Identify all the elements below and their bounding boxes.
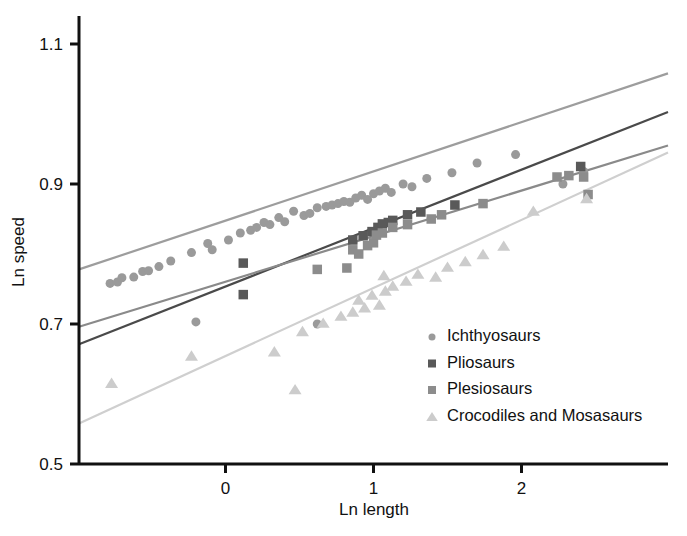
data-point	[564, 171, 574, 181]
data-point	[280, 217, 289, 226]
x-axis-title: Ln length	[339, 500, 409, 519]
legend-label: Plesiosaurs	[447, 379, 532, 397]
data-point	[473, 159, 482, 168]
data-point	[313, 203, 322, 212]
data-point	[354, 249, 364, 259]
y-tick-label: 0.7	[39, 315, 63, 334]
data-point	[576, 162, 586, 172]
data-point	[117, 273, 126, 282]
data-point	[437, 210, 447, 220]
data-point	[416, 207, 426, 217]
data-point	[313, 265, 323, 275]
data-point	[239, 290, 249, 300]
data-point	[289, 207, 298, 216]
data-point	[403, 210, 413, 220]
data-point	[399, 180, 408, 189]
data-point	[154, 262, 163, 271]
data-point	[388, 223, 398, 233]
data-point	[511, 150, 520, 159]
data-point	[252, 223, 261, 232]
data-point	[358, 231, 368, 241]
data-point	[450, 200, 460, 210]
data-point	[422, 174, 431, 183]
data-point	[239, 258, 249, 268]
y-axis-title: Ln speed	[9, 217, 28, 287]
legend-label: Ichthyosaurs	[447, 326, 541, 344]
chart-figure: 0.50.70.91.1 012 Ln speed Ln length Icht…	[0, 0, 687, 536]
x-tick-label: 1	[369, 479, 378, 498]
data-point	[208, 245, 217, 254]
data-point	[403, 220, 413, 230]
legend-label: Crocodiles and Mosasaurs	[447, 406, 642, 424]
data-point	[407, 182, 416, 191]
data-point	[144, 266, 153, 275]
data-point	[387, 188, 396, 197]
data-point	[378, 228, 388, 238]
data-point	[579, 172, 589, 182]
legend-marker-circle	[429, 334, 436, 341]
data-point	[342, 263, 352, 273]
data-point	[447, 168, 456, 177]
data-point	[187, 248, 196, 257]
data-point	[191, 317, 200, 326]
x-tick-label: 2	[517, 479, 526, 498]
data-point	[426, 214, 436, 224]
legend-marker-square	[428, 386, 436, 394]
data-point	[166, 257, 175, 266]
data-point	[265, 220, 274, 229]
data-point	[224, 236, 233, 245]
data-point	[129, 273, 138, 282]
y-tick-label: 0.5	[39, 455, 63, 474]
data-point	[348, 235, 358, 245]
x-tick-label: 0	[221, 479, 230, 498]
legend-marker-square	[428, 360, 436, 368]
data-point	[552, 172, 562, 182]
data-point	[236, 229, 245, 238]
scatter-plot-canvas: 0.50.70.91.1 012 Ln speed Ln length Icht…	[0, 0, 687, 536]
data-point	[305, 209, 314, 218]
legend-label: Pliosaurs	[447, 353, 515, 371]
y-tick-label: 1.1	[39, 35, 63, 54]
data-point	[478, 199, 488, 209]
y-tick-label: 0.9	[39, 175, 63, 194]
